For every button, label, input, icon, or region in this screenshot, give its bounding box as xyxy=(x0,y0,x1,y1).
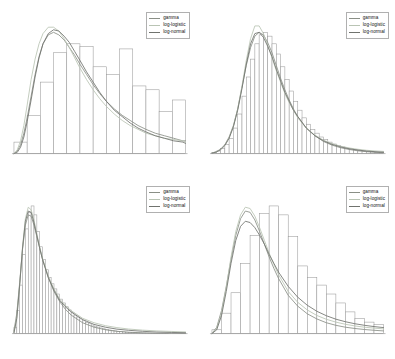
histogram-bar xyxy=(241,96,245,153)
histogram-bar xyxy=(28,212,31,333)
legend-label-log-logistic: log-logistic xyxy=(163,197,185,202)
legend-swatch-gamma xyxy=(349,192,360,193)
panel-4: gamma log-logistic log-normal xyxy=(198,180,395,359)
legend-entry-log-normal: log-normal xyxy=(349,203,385,210)
histogram-bar xyxy=(250,235,260,333)
legend-swatch-gamma xyxy=(349,18,360,19)
legend-swatch-gamma xyxy=(149,192,160,193)
histogram-bar xyxy=(335,302,345,333)
legend-entry-gamma: gamma xyxy=(149,189,185,196)
legend-label-gamma: gamma xyxy=(363,16,379,21)
histogram-bar xyxy=(229,138,233,153)
density-plot-grid: gamma log-logistic log-normal gamma log-… xyxy=(0,0,395,359)
histogram-bar xyxy=(40,82,53,153)
histogram-bar xyxy=(237,114,241,154)
histogram-bar xyxy=(263,32,267,153)
histogram-bar xyxy=(254,44,258,154)
panel-1-legend: gamma log-logistic log-normal xyxy=(146,12,189,39)
histogram-bar xyxy=(297,110,301,153)
legend-swatch-log-normal xyxy=(149,206,160,207)
legend-label-gamma: gamma xyxy=(363,190,379,195)
legend-label-gamma: gamma xyxy=(163,16,179,21)
histogram-bar xyxy=(288,236,298,333)
panel-2: gamma log-logistic log-normal xyxy=(198,0,395,180)
legend-label-log-logistic: log-logistic xyxy=(163,23,185,28)
histogram-bar xyxy=(267,36,271,153)
legend-entry-log-logistic: log-logistic xyxy=(349,196,385,203)
legend-entry-gamma: gamma xyxy=(349,189,385,196)
legend-swatch-log-logistic xyxy=(349,199,360,200)
histogram-bar xyxy=(120,49,133,154)
legend-swatch-log-normal xyxy=(349,206,360,207)
legend-swatch-log-logistic xyxy=(149,199,160,200)
histogram-bar xyxy=(133,86,146,154)
legend-label-log-logistic: log-logistic xyxy=(363,197,385,202)
histogram-bar xyxy=(307,277,317,333)
legend-label-log-normal: log-normal xyxy=(363,30,385,35)
histogram-bar xyxy=(20,285,23,334)
legend-label-log-normal: log-normal xyxy=(163,30,185,35)
legend-entry-gamma: gamma xyxy=(149,15,185,22)
histogram-bar xyxy=(146,90,159,154)
legend-entry-log-logistic: log-logistic xyxy=(349,22,385,29)
histogram-bar xyxy=(246,77,250,154)
histogram-bar xyxy=(172,100,185,154)
legend-label-log-normal: log-normal xyxy=(363,204,385,209)
histogram-bar xyxy=(25,228,28,333)
histogram-bar xyxy=(45,269,48,333)
legend-swatch-log-normal xyxy=(349,32,360,33)
panel-4-legend: gamma log-logistic log-normal xyxy=(346,186,389,213)
histogram-bar xyxy=(54,53,67,154)
histogram-bar xyxy=(293,101,297,153)
legend-entry-gamma: gamma xyxy=(349,15,385,22)
histogram-bar xyxy=(106,74,119,153)
histogram-bar xyxy=(224,145,228,154)
legend-swatch-gamma xyxy=(149,18,160,19)
legend-entry-log-normal: log-normal xyxy=(149,203,185,210)
legend-swatch-log-normal xyxy=(149,32,160,33)
histogram-bar xyxy=(48,277,51,333)
histogram-bar xyxy=(93,67,106,154)
histogram-bar xyxy=(159,111,172,153)
histogram-bar xyxy=(43,259,46,333)
legend-swatch-log-logistic xyxy=(349,25,360,26)
legend-swatch-log-logistic xyxy=(149,25,160,26)
histogram-bar xyxy=(231,292,241,333)
legend-entry-log-normal: log-normal xyxy=(349,29,385,36)
histogram-bar xyxy=(23,254,26,333)
histogram-bar xyxy=(259,35,263,154)
legend-label-log-normal: log-normal xyxy=(163,204,185,209)
panel-3-legend: gamma log-logistic log-normal xyxy=(146,186,189,213)
legend-entry-log-normal: log-normal xyxy=(149,29,185,36)
histogram-bar xyxy=(80,46,93,153)
histogram-bar xyxy=(276,54,280,154)
histogram-bar xyxy=(326,294,336,334)
panel-2-legend: gamma log-logistic log-normal xyxy=(346,12,389,39)
legend-entry-log-logistic: log-logistic xyxy=(149,196,185,203)
histogram-bar xyxy=(316,285,326,334)
legend-entry-log-logistic: log-logistic xyxy=(149,22,185,29)
histogram-bar xyxy=(221,313,231,333)
histogram-bar xyxy=(240,263,250,333)
panel-3: gamma log-logistic log-normal xyxy=(0,180,198,359)
histogram-bar xyxy=(233,128,237,154)
histogram-bar xyxy=(297,265,307,333)
legend-label-log-logistic: log-logistic xyxy=(363,23,385,28)
histogram-bar xyxy=(250,59,254,153)
panel-1: gamma log-logistic log-normal xyxy=(0,0,198,180)
histogram-bar xyxy=(40,246,43,333)
legend-label-gamma: gamma xyxy=(163,190,179,195)
histogram-bar xyxy=(27,115,40,153)
